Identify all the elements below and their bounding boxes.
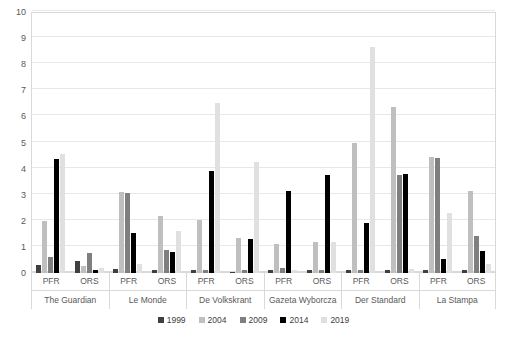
subcategory-label-pfr: PFR (187, 273, 225, 290)
y-tick-label-10: 10 (2, 8, 26, 17)
bar-subgroup (302, 12, 341, 273)
subcategory-labels: PFRORS (32, 273, 109, 290)
bar (209, 171, 214, 273)
category-label: La Stampa (420, 290, 496, 310)
bar (397, 175, 402, 273)
bar-subgroup (109, 12, 148, 273)
bar (42, 221, 47, 273)
bar-chart: 012345678910 PFRORSThe GuardianPFRORSLe … (0, 0, 507, 345)
bar-group (109, 12, 187, 273)
bar-subgroup (457, 12, 496, 273)
category-cell: PFRORSLe Monde (109, 273, 187, 309)
bar (391, 107, 396, 273)
bar-subgroup (264, 12, 303, 273)
legend: 19992004200920142019 (0, 312, 507, 328)
bar (468, 191, 473, 273)
gridline-10 (32, 10, 495, 11)
bar (274, 244, 279, 273)
subcategory-label-pfr: PFR (110, 273, 148, 290)
subcategory-label-ors: ORS (225, 273, 263, 290)
legend-label: 2014 (289, 316, 308, 325)
subcategory-label-pfr: PFR (265, 273, 303, 290)
category-cell: PFRORSDer Standard (341, 273, 419, 309)
legend-swatch-icon (280, 317, 286, 323)
bar-subgroup (70, 12, 109, 273)
bar (313, 242, 318, 273)
bar-group (31, 12, 109, 273)
y-tick-label-2: 2 (2, 217, 26, 226)
legend-label: 2009 (249, 316, 268, 325)
bar (441, 259, 446, 273)
bar (236, 238, 241, 273)
subcategory-label-pfr: PFR (342, 273, 380, 290)
bar-subgroup (31, 12, 70, 273)
y-tick-label-8: 8 (2, 60, 26, 69)
legend-item-2004[interactable]: 2004 (199, 316, 227, 325)
legend-label: 1999 (167, 316, 186, 325)
subcategory-label-ors: ORS (70, 273, 108, 290)
bars-layer (31, 12, 496, 273)
category-label: Le Monde (110, 290, 187, 310)
category-label: Gazeta Wyborcza (265, 290, 342, 310)
bar-subgroup (419, 12, 458, 273)
bar-group (186, 12, 264, 273)
category-cell: PFRORSDe Volkskrant (186, 273, 264, 309)
category-cell: PFRORSGazeta Wyborcza (264, 273, 342, 309)
subcategory-label-pfr: PFR (32, 273, 70, 290)
subcategory-labels: PFRORS (342, 273, 419, 290)
legend-swatch-icon (199, 317, 205, 323)
legend-item-2014[interactable]: 2014 (280, 316, 308, 325)
bar (158, 216, 163, 273)
category-label: The Guardian (32, 290, 109, 310)
y-tick-label-5: 5 (2, 139, 26, 148)
bar-group (341, 12, 419, 273)
legend-swatch-icon (321, 317, 327, 323)
y-tick-label-1: 1 (2, 243, 26, 252)
bar (131, 233, 136, 273)
bar (447, 213, 452, 273)
bar (286, 191, 291, 273)
bar (370, 47, 375, 273)
category-cell: PFRORSThe Guardian (31, 273, 109, 309)
subcategory-label-ors: ORS (303, 273, 341, 290)
bar (176, 231, 181, 273)
bar (352, 143, 357, 274)
bar-group (419, 12, 497, 273)
y-tick-label-6: 6 (2, 112, 26, 121)
y-axis: 012345678910 (0, 0, 31, 285)
bar (48, 257, 53, 273)
subcategory-labels: PFRORS (420, 273, 496, 290)
bar (54, 159, 59, 273)
category-label: Der Standard (342, 290, 419, 310)
subcategory-labels: PFRORS (110, 273, 187, 290)
bar-subgroup (341, 12, 380, 273)
legend-item-2009[interactable]: 2009 (240, 316, 268, 325)
subcategory-label-ors: ORS (148, 273, 186, 290)
subcategory-label-pfr: PFR (420, 273, 458, 290)
bar (125, 193, 130, 273)
y-tick-label-0: 0 (2, 269, 26, 278)
bar (474, 236, 479, 273)
bar (331, 242, 336, 273)
bar (248, 239, 253, 273)
bar-subgroup (147, 12, 186, 273)
bar (87, 253, 92, 273)
bar (403, 174, 408, 273)
y-tick-label-3: 3 (2, 191, 26, 200)
bar (60, 154, 65, 273)
legend-item-1999[interactable]: 1999 (158, 316, 186, 325)
bar (170, 252, 175, 273)
subcategory-labels: PFRORS (187, 273, 264, 290)
y-tick-label-7: 7 (2, 86, 26, 95)
bar (36, 265, 41, 273)
bar-group (264, 12, 342, 273)
subcategory-label-ors: ORS (457, 273, 495, 290)
subcategory-label-ors: ORS (380, 273, 418, 290)
bar (119, 192, 124, 273)
y-tick-label-9: 9 (2, 34, 26, 43)
bar (254, 162, 259, 273)
legend-item-2019[interactable]: 2019 (321, 316, 349, 325)
y-tick-label-4: 4 (2, 165, 26, 174)
bar-subgroup (225, 12, 264, 273)
legend-swatch-icon (240, 317, 246, 323)
